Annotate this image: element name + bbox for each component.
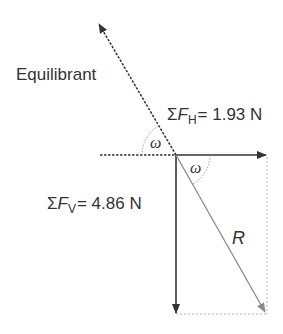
- vertical-value: = 4.86 N: [77, 194, 142, 213]
- sum-fv-label: ΣFV= 4.86 N: [47, 194, 142, 216]
- resultant-vector: [176, 155, 265, 312]
- angle-omega-upper: ω: [150, 134, 161, 151]
- angle-omega-lower: ω: [190, 159, 201, 176]
- horizontal-value: = 1.93 N: [198, 105, 263, 124]
- horizontal-subscript: H: [188, 113, 197, 127]
- equilibrant-vector: [99, 24, 176, 155]
- resultant-label: R: [232, 228, 245, 248]
- equilibrant-label: Equilibrant: [16, 65, 97, 84]
- vector-diagram: Equilibrant ΣFH= 1.93 N ΣFV= 4.86 N R ω …: [0, 0, 283, 334]
- sum-symbol: Σ: [167, 105, 178, 124]
- vertical-subscript: V: [68, 202, 76, 216]
- sum-fh-label: ΣFH= 1.93 N: [167, 105, 262, 127]
- sum-symbol: Σ: [47, 194, 58, 213]
